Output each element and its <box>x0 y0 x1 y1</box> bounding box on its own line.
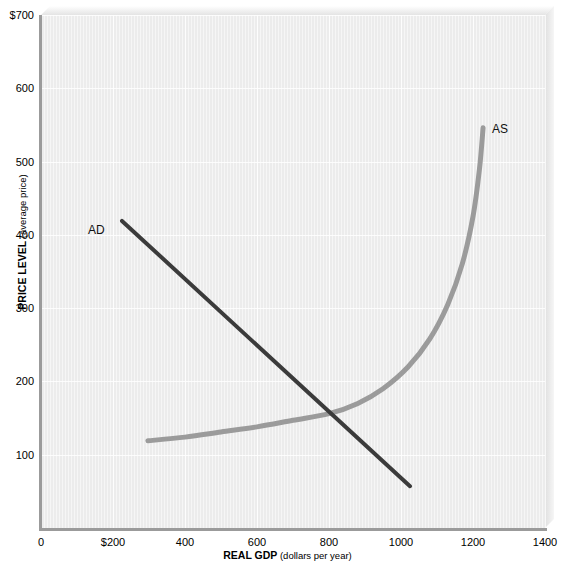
y-axis-title: PRICE LEVEL (average price) <box>16 122 28 362</box>
plot-area <box>41 15 545 528</box>
ad-curve <box>122 221 410 486</box>
as-curve-label: AS <box>492 122 508 136</box>
x-tick-label: 0 <box>38 536 44 548</box>
x-tick-label: 600 <box>248 536 266 548</box>
x-tick-label: 1400 <box>533 536 557 548</box>
as-curve <box>148 128 483 441</box>
curve-layer <box>41 15 545 528</box>
x-axis-title-bold: REAL GDP <box>223 549 277 561</box>
y-axis-line <box>39 15 42 531</box>
x-tick-label: 1200 <box>461 536 485 548</box>
y-tick-label: 100 <box>0 449 34 461</box>
y-tick-label: $700 <box>0 9 34 21</box>
panel-bevel-top <box>41 6 554 15</box>
panel-bevel-right <box>545 6 554 528</box>
y-tick-label: 200 <box>0 375 34 387</box>
x-tick-label: $200 <box>101 536 125 548</box>
x-tick-label: 1000 <box>389 536 413 548</box>
x-tick-label: 400 <box>176 536 194 548</box>
x-tick-label: 800 <box>320 536 338 548</box>
x-axis-title: REAL GDP (dollars per year) <box>0 549 575 561</box>
x-axis-line <box>39 528 547 531</box>
y-tick-label: 600 <box>0 82 34 94</box>
y-axis-title-regular: (average price) <box>17 174 28 241</box>
x-axis-title-regular: (dollars per year) <box>277 550 351 561</box>
ad-curve-label: AD <box>88 223 105 237</box>
y-axis-title-bold: PRICE LEVEL <box>16 241 28 310</box>
gridline-vertical <box>545 15 546 528</box>
